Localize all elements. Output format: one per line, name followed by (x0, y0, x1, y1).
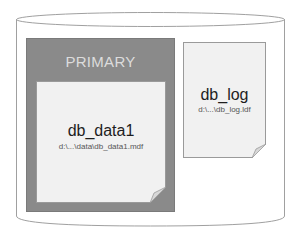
database-diagram: PRIMARY db_data1 d:\...\data\db_data1.md… (0, 0, 296, 231)
file-path: d:\...\data\db_data1.mdf (37, 142, 165, 151)
file-path: d:\...\db_log.ldf (184, 105, 265, 114)
file-name: db_log (184, 86, 265, 104)
file-name: db_data1 (37, 122, 165, 140)
page-curl-icon (150, 187, 166, 203)
file-db-log: db_log d:\...\db_log.ldf (183, 42, 266, 158)
file-db-data1: db_data1 d:\...\data\db_data1.mdf (36, 81, 166, 203)
filegroup-label: PRIMARY (27, 53, 174, 70)
page-curl-icon (252, 144, 266, 158)
